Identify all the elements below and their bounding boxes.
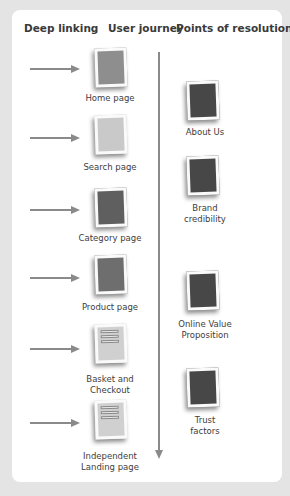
form-line-icon (101, 340, 119, 344)
category-page-icon (94, 187, 127, 227)
form-line-icon (101, 335, 119, 339)
resolution-label: Brand credibility (160, 203, 250, 225)
user-journey-label: Product page (65, 302, 155, 313)
search-page-icon (94, 114, 127, 154)
trust-factors-page-icon (186, 367, 219, 407)
header-points-of-resolution: Points of resolution (176, 22, 290, 34)
user-journey-label: Search page (65, 162, 155, 173)
resolution-label: About Us (160, 127, 250, 138)
form-line-icon (101, 406, 119, 410)
resolution-label: Online Value Proposition (160, 319, 250, 341)
user-journey-label: Independent Landing page (65, 451, 155, 473)
resolution-label: Trust factors (160, 415, 250, 437)
form-line-icon (101, 416, 119, 420)
landing-page-icon (94, 399, 127, 439)
user-journey-label: Basket and Checkout (65, 374, 155, 396)
form-line-icon (101, 411, 119, 415)
product-page-icon (94, 254, 127, 294)
about-us-page-icon (186, 80, 219, 120)
user-journey-timeline (158, 52, 160, 452)
brand-credibility-page-icon (186, 155, 219, 195)
deep-link-arrow-icon (30, 274, 80, 282)
home-page-icon (94, 47, 127, 87)
deep-link-arrow-icon (30, 134, 80, 142)
deep-link-arrow-icon (30, 65, 80, 73)
deep-link-arrow-icon (30, 345, 80, 353)
online-value-proposition-page-icon (186, 270, 219, 310)
diagram-card (12, 10, 282, 482)
form-line-icon (101, 330, 119, 334)
deep-link-arrow-icon (30, 419, 80, 427)
user-journey-label: Home page (65, 93, 155, 104)
header-user-journey: User journey (108, 22, 184, 34)
user-journey-label: Category page (65, 233, 155, 244)
basket-page-icon (94, 323, 127, 363)
down-arrow-icon (155, 450, 163, 459)
header-deep-linking: Deep linking (24, 22, 98, 34)
deep-link-arrow-icon (30, 206, 80, 214)
